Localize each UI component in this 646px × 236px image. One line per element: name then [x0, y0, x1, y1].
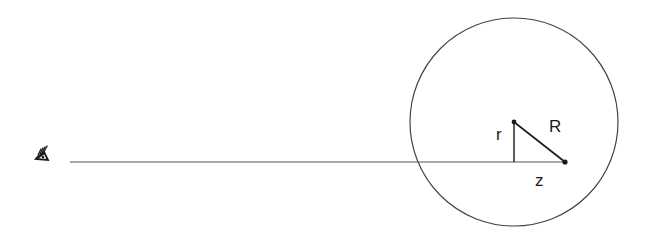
- eye-icon: [36, 146, 48, 160]
- label-R: R: [549, 118, 561, 135]
- label-z: z: [535, 172, 544, 189]
- point-on-line: [562, 159, 567, 164]
- center-point: [512, 120, 517, 125]
- label-r: r: [496, 126, 502, 143]
